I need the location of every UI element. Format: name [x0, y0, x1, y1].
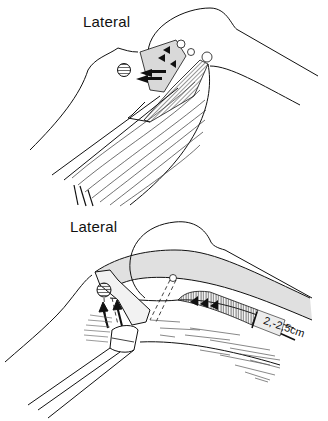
bottom-anatomy-drawing [0, 210, 328, 421]
top-anatomy-drawing [0, 0, 328, 210]
top-panel: Lateral [0, 0, 328, 210]
lateral-label-bottom: Lateral [70, 218, 117, 235]
lateral-label-top: Lateral [83, 13, 130, 30]
bottom-panel: Lateral 2,-2,5cm [0, 210, 328, 421]
